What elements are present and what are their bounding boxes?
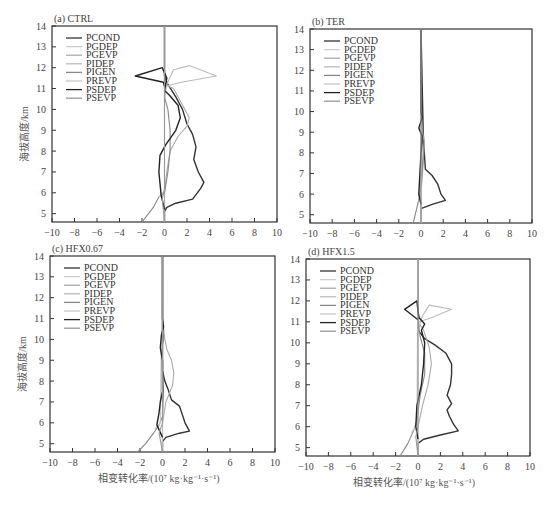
series-group	[400, 259, 458, 456]
x-tick-label: −4	[114, 227, 125, 238]
legend: PCONDPGDEPPGEVPPIDEPPIGENPREVPPSDEPPSEVP	[66, 32, 120, 103]
series-line-psdep	[405, 301, 425, 439]
x-tick-label: −8	[323, 461, 334, 472]
y-tick-label: 6	[299, 189, 304, 200]
x-tick-label: −10	[44, 227, 60, 238]
x-tick-label: −4	[112, 457, 123, 468]
panel-title: (d) HFX1.5	[308, 246, 355, 258]
y-tick-label: 7	[41, 166, 46, 177]
y-tick-label: 10	[34, 334, 44, 345]
y-tick-label: 7	[295, 400, 300, 411]
y-tick-label: 14	[294, 24, 304, 35]
x-tick-label: 8	[252, 227, 257, 238]
y-tick-label: 14	[36, 21, 46, 32]
x-tick-label: −8	[67, 457, 78, 468]
y-tick-label: 12	[294, 65, 304, 76]
x-tick-label: 2	[185, 227, 190, 238]
x-tick-label: −2	[393, 228, 404, 239]
x-tick-label: −10	[302, 228, 318, 239]
y-tick-label: 13	[34, 271, 44, 282]
chart-panel-d: (d) HFX1.5567891011121314−10−8−6−4−20246…	[290, 246, 535, 489]
legend: PCONDPGDEPPGEVPPIDEPPIGENPREVPPSDEPPSEVP	[320, 265, 374, 336]
x-tick-label: 0	[419, 228, 424, 239]
y-tick-label: 6	[295, 421, 300, 432]
x-tick-label: −10	[42, 457, 58, 468]
x-tick-label: 8	[505, 461, 510, 472]
x-tick-label: 6	[228, 457, 233, 468]
series-line-pigen	[400, 259, 425, 456]
x-tick-label: 6	[485, 228, 490, 239]
y-tick-label: 6	[39, 417, 44, 428]
y-tick-label: 14	[34, 251, 44, 262]
y-tick-label: 9	[295, 358, 300, 369]
panel-title: (c) HFX0.67	[52, 243, 103, 255]
x-tick-label: 2	[183, 457, 188, 468]
y-tick-label: 5	[295, 442, 300, 453]
x-tick-label: 4	[207, 227, 212, 238]
y-tick-label: 8	[299, 147, 304, 158]
y-tick-label: 6	[41, 187, 46, 198]
y-tick-label: 8	[295, 379, 300, 390]
x-tick-label: −6	[345, 461, 356, 472]
y-tick-label: 12	[34, 292, 44, 303]
x-tick-label: −2	[137, 227, 148, 238]
y-tick-label: 7	[39, 396, 44, 407]
x-tick-label: −10	[298, 461, 314, 472]
x-tick-label: 2	[441, 228, 446, 239]
series-line-pgevp	[165, 26, 190, 222]
x-tick-label: 0	[416, 461, 421, 472]
series-line-pcond	[165, 26, 204, 222]
y-tick-label: 13	[290, 274, 300, 285]
x-tick-label: −4	[368, 461, 379, 472]
x-tick-label: −6	[90, 457, 101, 468]
x-tick-label: −6	[349, 228, 360, 239]
x-tick-label: 0	[162, 227, 167, 238]
legend-label: PSEVP	[84, 322, 114, 333]
x-tick-label: 10	[525, 461, 535, 472]
y-tick-label: 5	[39, 438, 44, 449]
x-tick-label: −8	[327, 228, 338, 239]
y-tick-label: 13	[36, 41, 46, 52]
panel-title: (a) CTRL	[54, 13, 93, 25]
x-tick-label: 10	[527, 228, 537, 239]
y-tick-label: 9	[39, 355, 44, 366]
y-tick-label: 13	[294, 44, 304, 55]
x-tick-label: −2	[135, 457, 146, 468]
series-group	[135, 26, 216, 222]
y-tick-label: 10	[294, 106, 304, 117]
legend-label: PSEVP	[86, 92, 116, 103]
x-tick-label: −2	[390, 461, 401, 472]
y-axis-label: 海拔高度/km	[16, 336, 28, 392]
y-tick-label: 8	[41, 146, 46, 157]
x-tick-label: 0	[160, 457, 165, 468]
x-tick-label: 4	[463, 228, 468, 239]
x-tick-label: 8	[507, 228, 512, 239]
x-tick-label: 2	[438, 461, 443, 472]
y-tick-label: 11	[34, 313, 44, 324]
chart-panel-b: (b) TER567891011121314−10−8−6−4−20246810…	[294, 16, 537, 239]
x-axis-label: 相变转化率/(10⁷ kg·kg⁻¹·s⁻¹)	[353, 476, 475, 489]
figure-canvas: (a) CTRL567891011121314−10−8−6−4−2024681…	[0, 0, 554, 506]
series-line-pigen	[138, 256, 164, 452]
y-tick-label: 9	[41, 125, 46, 136]
series-line-pgevp	[163, 256, 174, 452]
series-line-pcond	[421, 29, 445, 223]
y-tick-label: 11	[36, 83, 46, 94]
legend: PCONDPGDEPPGEVPPIDEPPIGENPREVPPSDEPPSEVP	[64, 262, 118, 333]
y-tick-label: 5	[41, 208, 46, 219]
series-group	[413, 29, 445, 223]
y-tick-label: 9	[299, 127, 304, 138]
series-group	[138, 256, 190, 452]
y-tick-label: 10	[290, 337, 300, 348]
y-tick-label: 12	[36, 62, 46, 73]
chart-panel-a: (a) CTRL567891011121314−10−8−6−4−2024681…	[18, 13, 282, 238]
series-line-prevp	[159, 26, 165, 197]
x-tick-label: 4	[460, 461, 465, 472]
x-tick-label: 4	[205, 457, 210, 468]
y-tick-label: 11	[294, 85, 304, 96]
x-tick-label: −4	[371, 228, 382, 239]
y-tick-label: 5	[299, 209, 304, 220]
legend: PCONDPGDEPPGEVPPIDEPPIGENPREVPPSDEPPSEVP	[324, 35, 378, 106]
y-tick-label: 12	[290, 295, 300, 306]
chart-panel-c: (c) HFX0.67567891011121314−10−8−6−4−2024…	[16, 243, 280, 485]
